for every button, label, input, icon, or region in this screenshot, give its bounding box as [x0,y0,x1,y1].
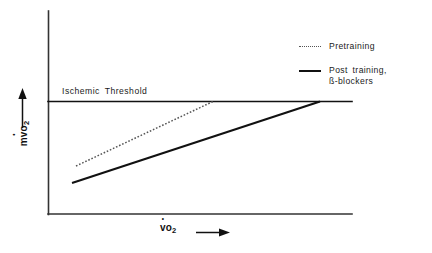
legend-label-pretraining: Pretraining [329,41,375,52]
x-axis-arrow-icon [196,229,230,237]
x-axis-label-vdot: v [160,222,166,233]
y-axis-label: mvo2 [6,88,40,168]
legend-item-post-training: Post training, ß-blockers [299,65,429,87]
x-axis-label-subscript: 2 [172,226,176,235]
chart-figure: mvo2 vo2 Ischemic Threshold Pretraining … [0,0,432,253]
legend-item-pretraining: Pretraining [299,41,429,52]
series-line-pretraining [76,102,213,167]
y-axis-label-subscript: 2 [22,121,31,125]
legend-label-post-training: Post training, ß-blockers [329,65,387,87]
plot-area [0,0,432,253]
chart-legend: Pretraining Post training, ß-blockers [299,41,429,100]
legend-marker-dotted-line-icon [299,41,321,52]
ischemic-threshold-label: Ischemic Threshold [62,86,147,96]
y-axis-label-text: mvo2 [18,108,29,160]
x-axis-label: vo2 [160,222,176,233]
series-line-post-training [72,102,320,184]
x-axis-label-text: vo2 [160,222,176,233]
y-axis-label-m: m [18,137,29,146]
y-axis-label-vdot: v [18,131,29,137]
legend-marker-solid-line-icon [299,65,321,76]
